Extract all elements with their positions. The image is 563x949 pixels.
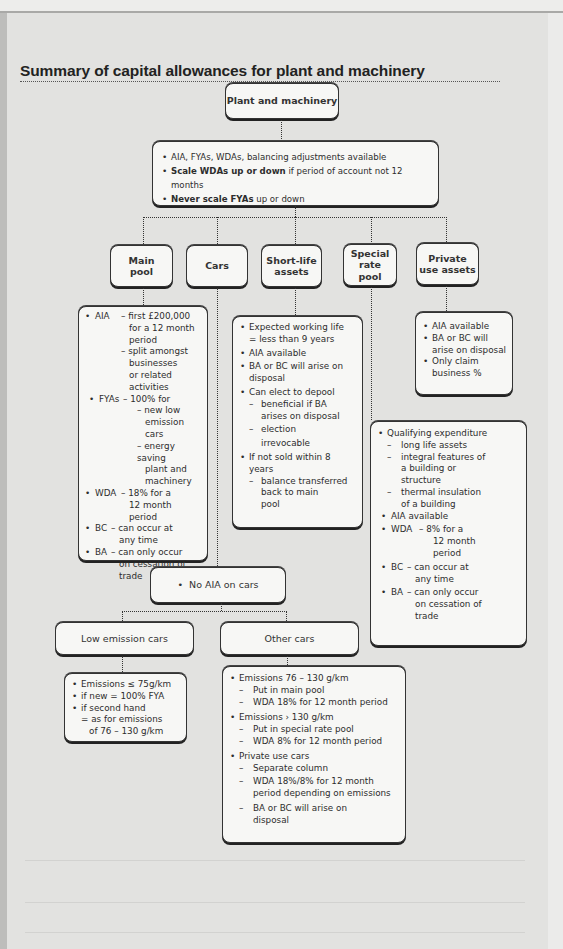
page-title: Summary of capital allowances for plant …	[20, 62, 500, 82]
category-label: pool	[344, 271, 396, 283]
connector-cars-split	[122, 611, 287, 612]
other-cars-point: Private use cars Separate column WDA 18%…	[229, 750, 401, 826]
special-rate-bc: •BC – can occur atany time	[381, 562, 522, 586]
special-rate-point: Qualifying expenditure long life assets …	[377, 428, 522, 511]
page-top-band	[0, 0, 563, 13]
root-point: Scale WDAs up or down if period of accou…	[161, 164, 432, 192]
short-life-point: If not sold within 8years balance transf…	[239, 452, 358, 511]
private-use-detail: AIA available BA or BC willarise on disp…	[415, 312, 513, 395]
special-rate-wda: •WDA – 8% for a12 monthperiod	[381, 524, 522, 559]
root-node-plant-and-machinery: Plant and machinery	[225, 83, 339, 119]
connector-private-use-detail	[446, 286, 447, 311]
show-through-line	[25, 932, 525, 933]
main-pool-wda: •WDA – 18% for a12 monthperiod	[85, 488, 203, 523]
special-rate-ba: •BA – can only occuron cessation oftrade	[381, 587, 522, 622]
short-life-point: BA or BC will arise ondisposal	[239, 361, 358, 385]
bullet-icon: •	[177, 579, 183, 591]
category-label: use assets	[419, 264, 476, 276]
main-pool-fya-items: – new lowemission cars – energy savingpl…	[85, 405, 203, 488]
other-cars-point: Emissions 76 – 130 g/km Put in main pool…	[229, 672, 401, 709]
category-short-life-assets: Short-lifeassets	[261, 245, 322, 287]
short-life-point: Can elect to depool beneficial if BAaris…	[239, 387, 358, 450]
connector-to-short-life	[295, 217, 296, 244]
root-point: Never scale FYAs up or down	[161, 192, 432, 206]
category-label: assets	[266, 266, 316, 278]
private-use-point: BA or BC willarise on disposal	[422, 333, 508, 357]
root-point: AIA, FYAs, WDAs, balancing adjustments a…	[161, 150, 432, 164]
private-use-point: Only claimbusiness %	[422, 356, 508, 380]
short-life-detail: Expected working life= less than 9 years…	[232, 316, 363, 528]
connector-to-private-use	[446, 217, 447, 244]
main-pool-detail: •AIA – first £200,000for a 12 monthperio…	[78, 306, 208, 561]
category-label: pool	[129, 266, 155, 278]
low-emission-point: Emissions ≤ 75g/km	[71, 679, 182, 691]
category-label: Cars	[205, 260, 229, 272]
connector-short-life-detail	[295, 288, 296, 315]
category-special-rate-pool: Special ratepool	[343, 244, 397, 286]
other-cars-label: Other cars	[265, 633, 315, 645]
no-aia-label: No AIA on cars	[189, 579, 259, 591]
category-main-pool: Mainpool	[110, 245, 173, 287]
category-label: Short-life	[266, 255, 316, 267]
special-rate-aia: •AIA available	[381, 511, 522, 523]
connector-root-to-info	[281, 120, 282, 139]
connector-cars-down	[217, 288, 218, 566]
low-emission-point: if new = 100% FYA	[71, 691, 182, 703]
category-label: Main	[129, 255, 155, 267]
low-emission-label: Low emission cars	[81, 633, 168, 645]
low-emission-point: if second hand= as for emissionsof 76 – …	[71, 703, 182, 738]
main-pool-aia: •AIA – first £200,000for a 12 monthperio…	[85, 311, 203, 346]
other-cars-detail: Emissions 76 – 130 g/km Put in main pool…	[222, 666, 406, 843]
show-through-line	[25, 902, 525, 903]
show-through-line	[25, 860, 525, 861]
category-private-use-assets: Privateuse assets	[416, 243, 479, 285]
category-cars: Cars	[186, 245, 248, 287]
low-emission-detail: Emissions ≤ 75g/km if new = 100% FYA if …	[64, 673, 187, 742]
special-rate-detail: Qualifying expenditure long life assets …	[370, 421, 527, 646]
low-emission-cars-box: Low emission cars	[55, 622, 194, 655]
short-life-point: Expected working life= less than 9 years	[239, 322, 358, 346]
page-right-margin	[548, 13, 563, 949]
no-aia-on-cars-box: •No AIA on cars	[150, 567, 286, 603]
connector-to-main-pool	[143, 217, 144, 244]
other-cars-box: Other cars	[220, 622, 359, 655]
connector-no-aia-down	[221, 603, 222, 611]
category-label: Private	[419, 253, 476, 265]
root-node-label: Plant and machinery	[227, 95, 338, 107]
connector-to-other-cars	[286, 611, 287, 621]
category-label: Special rate	[344, 248, 396, 271]
connector-info-to-branches	[295, 206, 296, 217]
short-life-point: AIA available	[239, 348, 358, 360]
connector-other-cars-detail	[287, 656, 288, 665]
other-cars-point: Emissions › 130 g/km Put in special rate…	[229, 711, 401, 748]
main-pool-aia-split: – split amongstbusinessesor relatedactiv…	[85, 346, 203, 393]
main-pool-bc: •BC – can occur atany time	[85, 523, 203, 547]
connector-special-rate-detail	[371, 287, 372, 420]
connector-low-emission-detail	[122, 656, 123, 672]
private-use-point: AIA available	[422, 321, 508, 333]
connector-main-pool-detail	[143, 288, 144, 305]
root-info-box: AIA, FYAs, WDAs, balancing adjustments a…	[152, 141, 439, 206]
connector-to-special-rate	[371, 217, 372, 244]
connector-to-cars	[217, 217, 218, 244]
page-left-edge	[0, 13, 7, 949]
connector-to-low-emission	[122, 611, 123, 621]
main-pool-fya: •FYAs – 100% for	[85, 394, 203, 406]
